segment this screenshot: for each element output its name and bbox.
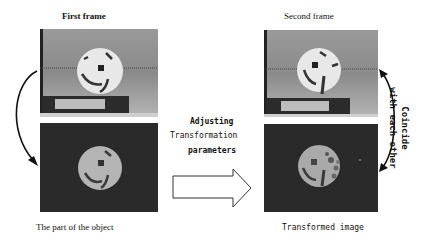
second-frame-image xyxy=(264,30,378,117)
second-frame-title: Second frame xyxy=(284,11,334,21)
part-of-object-caption: The part of the object xyxy=(36,222,113,232)
first-frame-image xyxy=(40,29,158,117)
transformed-image xyxy=(264,124,378,212)
transformation-label: Transformation xyxy=(170,131,237,140)
curved-arrow-left-icon xyxy=(0,60,50,175)
coincide-line1: Coincide xyxy=(399,78,411,178)
object-part-image xyxy=(40,123,158,212)
parameters-label: parameters xyxy=(188,146,236,155)
adjusting-label: Adjusting xyxy=(190,117,233,126)
first-frame-title: First frame xyxy=(62,11,106,21)
coincide-line2: with each other xyxy=(387,78,399,178)
block-arrow-right-icon xyxy=(170,166,256,210)
coincide-label: Coincide with each other xyxy=(385,78,411,178)
transformed-image-caption: Transformed image xyxy=(282,223,364,232)
